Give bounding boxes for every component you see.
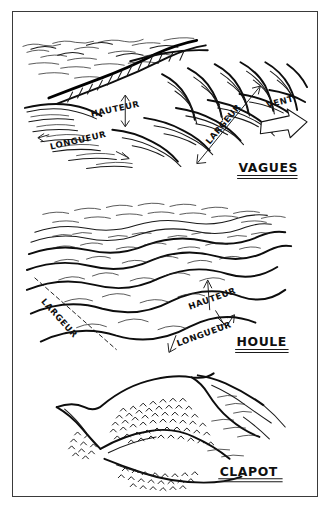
caption-vagues-underline	[238, 175, 298, 178]
panel-houle: LARGEUR HAUTEUR LONGUEUR	[13, 184, 317, 359]
caption-houle: HOULE	[237, 335, 287, 350]
vagues-artwork: HAUTEUR LONGUEUR LARGEUR VENT	[13, 12, 317, 184]
caption-houle-underline	[236, 349, 289, 352]
diagram-sheet: HAUTEUR LONGUEUR LARGEUR VENT	[0, 0, 331, 513]
label-longueur: LONGUEUR	[49, 129, 107, 152]
label-longueur-houle: LONGUEUR	[175, 319, 233, 348]
houle-artwork: LARGEUR HAUTEUR LONGUEUR	[13, 184, 317, 359]
label-hauteur-houle: HAUTEUR	[187, 285, 237, 311]
panel-clapot: CLAPOT	[13, 359, 317, 498]
label-largeur-houle: LARGEUR	[39, 296, 79, 339]
caption-clapot: CLAPOT	[220, 464, 278, 479]
wind-arrow-icon	[260, 109, 307, 138]
label-hauteur: HAUTEUR	[90, 99, 141, 119]
diagram-frame: HAUTEUR LONGUEUR LARGEUR VENT	[12, 11, 318, 497]
caption-vagues: VAGUES	[239, 161, 299, 176]
panel-vagues: HAUTEUR LONGUEUR LARGEUR VENT	[13, 12, 317, 184]
clapot-artwork: CLAPOT	[13, 359, 317, 498]
